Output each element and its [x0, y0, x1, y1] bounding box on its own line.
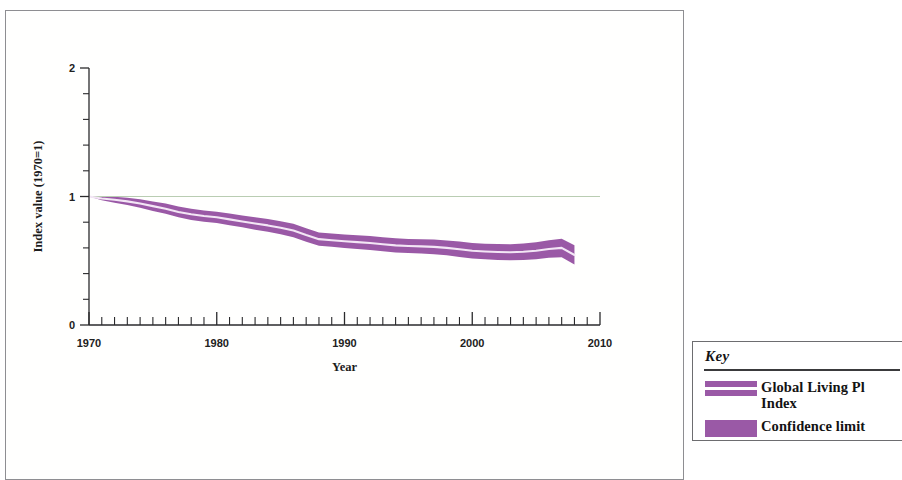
legend-swatch-line-bottom: [705, 390, 757, 396]
x-tick-label: 1990: [332, 337, 356, 349]
legend-swatch-block-wrap: [703, 418, 761, 437]
legend-item-confidence-limits: Confidence limit: [703, 418, 902, 437]
legend-label-index: Global Living Pl Index: [761, 379, 865, 411]
legend-title: Key: [705, 348, 902, 365]
x-tick-label: 2000: [460, 337, 484, 349]
legend-item-global-living-planet-index: Global Living Pl Index: [703, 379, 902, 411]
y-tick-label: 1: [69, 191, 75, 203]
legend-swatch-line-top: [705, 381, 757, 387]
y-tick-label: 0: [69, 319, 75, 331]
y-tick-label: 2: [69, 62, 75, 74]
confidence-band: [89, 197, 574, 265]
legend-swatch-block: [705, 420, 757, 437]
x-tick-label: 1980: [205, 337, 229, 349]
axis-labels: 012 19701980199020002010 Year Index valu…: [31, 62, 612, 374]
x-tick-label: 1970: [77, 337, 101, 349]
figure-area: 012 19701980199020002010 Year Index valu…: [0, 0, 684, 435]
legend-label-confidence: Confidence limit: [761, 418, 865, 434]
x-tick-label: 2010: [588, 337, 612, 349]
legend-swatch-line: [703, 379, 761, 396]
legend-divider: [704, 369, 900, 371]
living-planet-index-chart: 012 19701980199020002010 Year Index valu…: [0, 0, 684, 435]
chart-legend: Key Global Living Pl Index Confidence li…: [692, 341, 902, 441]
y-axis-title: Index value (1970=1): [31, 141, 45, 253]
x-axis-title: Year: [332, 360, 357, 374]
